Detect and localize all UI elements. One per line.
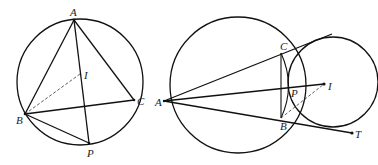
- right-figure: A C B P I T: [154, 17, 378, 153]
- label-B: B: [16, 114, 23, 126]
- point-B: [24, 113, 27, 116]
- point-P: [88, 142, 91, 145]
- label-T: T: [355, 128, 362, 140]
- arc-CPB: [281, 53, 289, 118]
- segment-AB: [25, 20, 74, 114]
- segment-AP: [74, 20, 89, 143]
- tangent-line-AC: [164, 34, 332, 101]
- segment-BI-dashed: [281, 84, 324, 118]
- label-B: B: [280, 120, 287, 132]
- left-figure: A B C I P: [16, 6, 145, 159]
- segment-AI: [164, 84, 324, 101]
- label-I: I: [83, 69, 89, 81]
- point-A: [73, 19, 76, 22]
- point-T: [350, 131, 353, 134]
- label-C: C: [280, 40, 288, 52]
- geometry-diagram: A B C I P A C B P I T: [0, 0, 378, 165]
- label-A: A: [154, 96, 162, 108]
- left-circumcircle: [17, 19, 143, 145]
- segment-BP: [25, 114, 89, 143]
- label-A: A: [69, 6, 77, 18]
- label-P: P: [290, 87, 298, 99]
- label-I: I: [327, 80, 333, 92]
- right-big-circle: [170, 17, 306, 153]
- right-small-circle: [288, 37, 378, 127]
- point-A: [163, 100, 165, 102]
- point-I: [322, 82, 325, 85]
- label-P: P: [86, 147, 94, 159]
- label-C: C: [137, 95, 145, 107]
- line-AT: [164, 101, 352, 133]
- point-C: [133, 99, 136, 102]
- segment-AC: [74, 20, 134, 100]
